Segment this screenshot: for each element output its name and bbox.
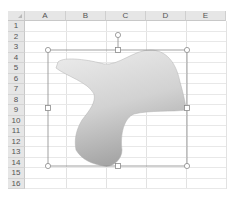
freeform-shape[interactable]: [56, 50, 186, 166]
resize-handle-middle-left[interactable]: [46, 106, 51, 111]
resize-handle-middle-right[interactable]: [185, 106, 190, 111]
rotation-handle[interactable]: [115, 32, 120, 37]
freeform-shape-layer: [0, 0, 233, 204]
resize-handle-bottom-left[interactable]: [45, 163, 50, 168]
resize-handle-bottom-center[interactable]: [116, 164, 121, 169]
resize-handle-top-right[interactable]: [184, 47, 189, 52]
resize-handle-top-center[interactable]: [116, 48, 121, 53]
resize-handle-top-left[interactable]: [45, 47, 50, 52]
resize-handle-bottom-right[interactable]: [184, 163, 189, 168]
